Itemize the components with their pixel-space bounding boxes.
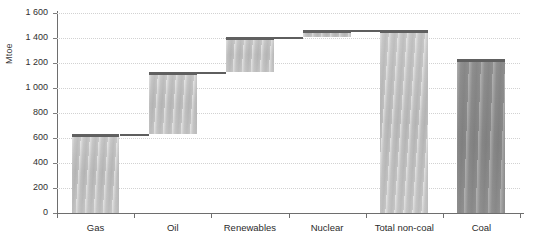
waterfall-connector: [197, 72, 226, 74]
x-tick-mark: [443, 213, 444, 218]
gridline: [57, 188, 520, 189]
x-tick-label-renewables: Renewables: [224, 222, 276, 233]
x-tick-mark: [520, 213, 521, 218]
waterfall-connector: [120, 134, 149, 136]
gridline: [57, 88, 520, 89]
y-tick-label: 800: [0, 107, 48, 117]
bar-cap-oil: [149, 72, 197, 75]
y-tick-mark: [53, 88, 57, 89]
plot-area: [57, 13, 520, 213]
y-tick-label: 1 000: [0, 82, 48, 92]
bar-cap-total-non-coal: [380, 30, 428, 33]
gridline: [57, 63, 520, 64]
waterfall-connector: [274, 37, 303, 39]
gridline: [57, 163, 520, 164]
x-tick-mark: [289, 213, 290, 218]
y-tick-label: 1 400: [0, 32, 48, 42]
x-tick-mark: [134, 213, 135, 218]
x-tick-label-gas: Gas: [87, 222, 104, 233]
x-tick-label-oil: Oil: [167, 222, 179, 233]
y-tick-mark: [53, 163, 57, 164]
bar-coal: [457, 59, 505, 213]
y-tick-label: 400: [0, 157, 48, 167]
y-tick-mark: [53, 13, 57, 14]
x-tick-mark: [57, 213, 58, 218]
y-tick-label: 200: [0, 182, 48, 192]
y-tick-mark: [53, 188, 57, 189]
gridline: [57, 113, 520, 114]
bar-cap-nuclear: [303, 30, 351, 33]
x-tick-mark: [211, 213, 212, 218]
bar-cap-coal: [457, 59, 505, 62]
bar-renewables: [226, 37, 274, 71]
x-tick-label-nuclear: Nuclear: [311, 222, 344, 233]
x-tick-mark: [366, 213, 367, 218]
bar-cap-renewables: [226, 37, 274, 40]
gridline: [57, 13, 520, 14]
x-tick-label-total-non-coal: Total non-coal: [375, 222, 434, 233]
bar-cap-gas: [72, 134, 120, 137]
bar-gas: [72, 134, 120, 213]
y-tick-label: 0: [0, 207, 48, 217]
y-tick-label: 1 600: [0, 7, 48, 17]
y-tick-mark: [53, 113, 57, 114]
x-tick-label-coal: Coal: [472, 222, 492, 233]
y-tick-label: 600: [0, 132, 48, 142]
bar-total-non-coal: [380, 30, 428, 213]
y-tick-mark: [53, 38, 57, 39]
y-tick-label: 1 200: [0, 57, 48, 67]
waterfall-chart: Mtoe 1 6001 4001 2001 0008006004002000 G…: [0, 0, 533, 246]
bar-oil: [149, 72, 197, 135]
y-tick-mark: [53, 63, 57, 64]
y-tick-mark: [53, 138, 57, 139]
gridline: [57, 138, 520, 139]
waterfall-connector-total: [351, 30, 380, 32]
